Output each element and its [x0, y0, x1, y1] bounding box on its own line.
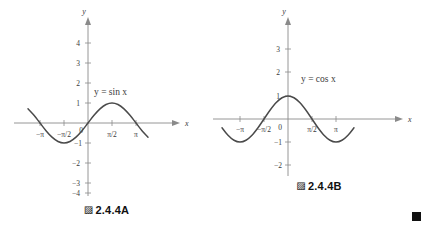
y-ticklabel-neg3: −3: [72, 179, 80, 188]
y-ticklabel-neg1: −1: [274, 138, 282, 147]
y-ticklabel-3: 3: [76, 59, 80, 68]
y-axis-label: y: [81, 7, 86, 16]
y-ticklabel-neg2: −2: [274, 161, 282, 170]
y-ticklabel-neg4: −4: [72, 189, 80, 198]
figure-b-caption-text: 2.4.4B: [308, 180, 342, 192]
x-ticklabel-neg-pi: −π: [236, 125, 244, 134]
y-axis-label: y: [281, 7, 286, 16]
sin-plot: y x 4 3 2 1 0 −1 −2 −3 −4 −π −π/2 π/2 π: [0, 0, 213, 200]
x-ticklabel-pi: π: [334, 125, 338, 134]
x-ticklabel-zero: 0: [278, 123, 282, 132]
y-ticklabel-2: 2: [276, 68, 280, 77]
x-axis-label: x: [184, 119, 189, 128]
x-ticklabel-neg-pi-half: −π/2: [57, 130, 71, 139]
caption-mark-icon: ▨: [296, 180, 306, 191]
figure-a-caption: ▨2.4.4A: [0, 204, 213, 216]
figure-cos-x: y x 3 2 1 0 −1 −2 −π −π/2 π/2 π y = cos …: [213, 0, 425, 239]
x-ticklabel-pi: π: [134, 130, 138, 139]
equation-label-sin: y = sin x: [94, 87, 127, 97]
x-ticklabel-pi-half: π/2: [107, 130, 117, 139]
y-axis-arrowhead: [285, 17, 291, 25]
x-ticklabel-neg-pi: −π: [36, 130, 44, 139]
x-ticklabel-pi-half: π/2: [307, 125, 317, 134]
x-axis-arrowhead: [172, 120, 180, 126]
equation-label-cos: y = cos x: [301, 74, 336, 84]
x-axis-arrowhead: [395, 116, 403, 122]
x-axis-label: x: [407, 115, 412, 124]
figure-sin-x: y x 4 3 2 1 0 −1 −2 −3 −4 −π −π/2 π/2 π: [0, 0, 213, 239]
y-ticklabel-3: 3: [276, 45, 280, 54]
y-ticklabel-neg1: −1: [74, 139, 82, 148]
y-ticklabel-2: 2: [76, 79, 80, 88]
y-ticklabel-neg2: −2: [72, 159, 80, 168]
page-corner-marker: [412, 212, 421, 221]
y-ticklabel-4: 4: [76, 39, 80, 48]
cos-plot: y x 3 2 1 0 −1 −2 −π −π/2 π/2 π y = cos …: [213, 0, 425, 180]
figure-b-caption: ▨2.4.4B: [213, 180, 425, 192]
y-ticklabel-1: 1: [76, 99, 80, 108]
caption-mark-icon: ▨: [84, 204, 94, 215]
figure-a-caption-text: 2.4.4A: [96, 204, 130, 216]
y-axis-arrowhead: [85, 17, 91, 25]
